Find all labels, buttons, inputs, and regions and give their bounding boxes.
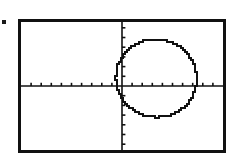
calculator-screenshot <box>0 0 236 160</box>
bullet-dot-icon <box>2 20 6 24</box>
plot-svg <box>21 22 223 150</box>
calculator-viewing-window <box>18 19 226 153</box>
plot-area <box>21 22 223 150</box>
series-circle <box>115 40 197 118</box>
